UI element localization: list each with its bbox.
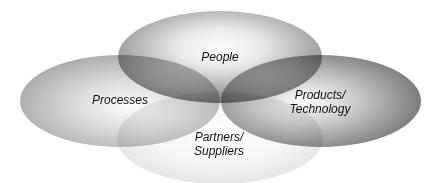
- label-processes-text: Processes: [92, 93, 148, 107]
- label-partners-line2: Suppliers: [194, 144, 244, 158]
- label-partners-suppliers: Partners/ Suppliers: [194, 130, 244, 158]
- label-products-line1: Products/: [290, 88, 351, 102]
- label-products-technology: Products/ Technology: [290, 88, 351, 116]
- label-processes: Processes: [92, 93, 148, 107]
- label-partners-line1: Partners/: [194, 130, 244, 144]
- label-products-line2: Technology: [290, 102, 351, 116]
- label-people-text: People: [201, 50, 238, 64]
- label-people: People: [201, 50, 238, 64]
